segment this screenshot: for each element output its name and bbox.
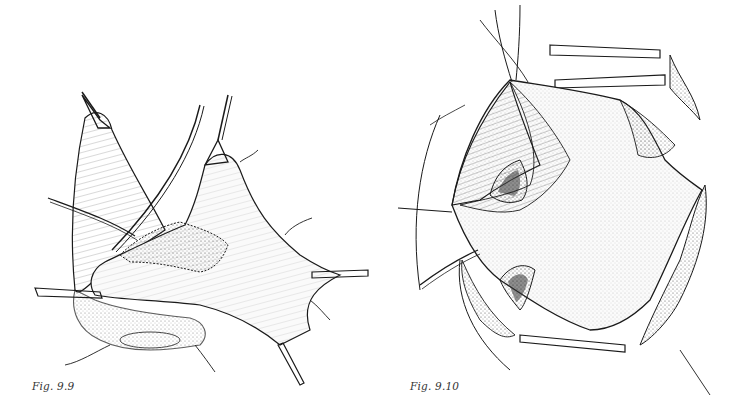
figure-9-9: Fig. 9.9: [0, 0, 380, 412]
figure-caption: Fig. 9.9: [32, 380, 74, 392]
illustration-tissue-flap: [0, 0, 380, 412]
illustration-open-cavity: [380, 0, 740, 412]
figure-caption: Fig. 9.10: [410, 380, 459, 392]
figure-9-10: Fig. 9.10: [380, 0, 740, 412]
